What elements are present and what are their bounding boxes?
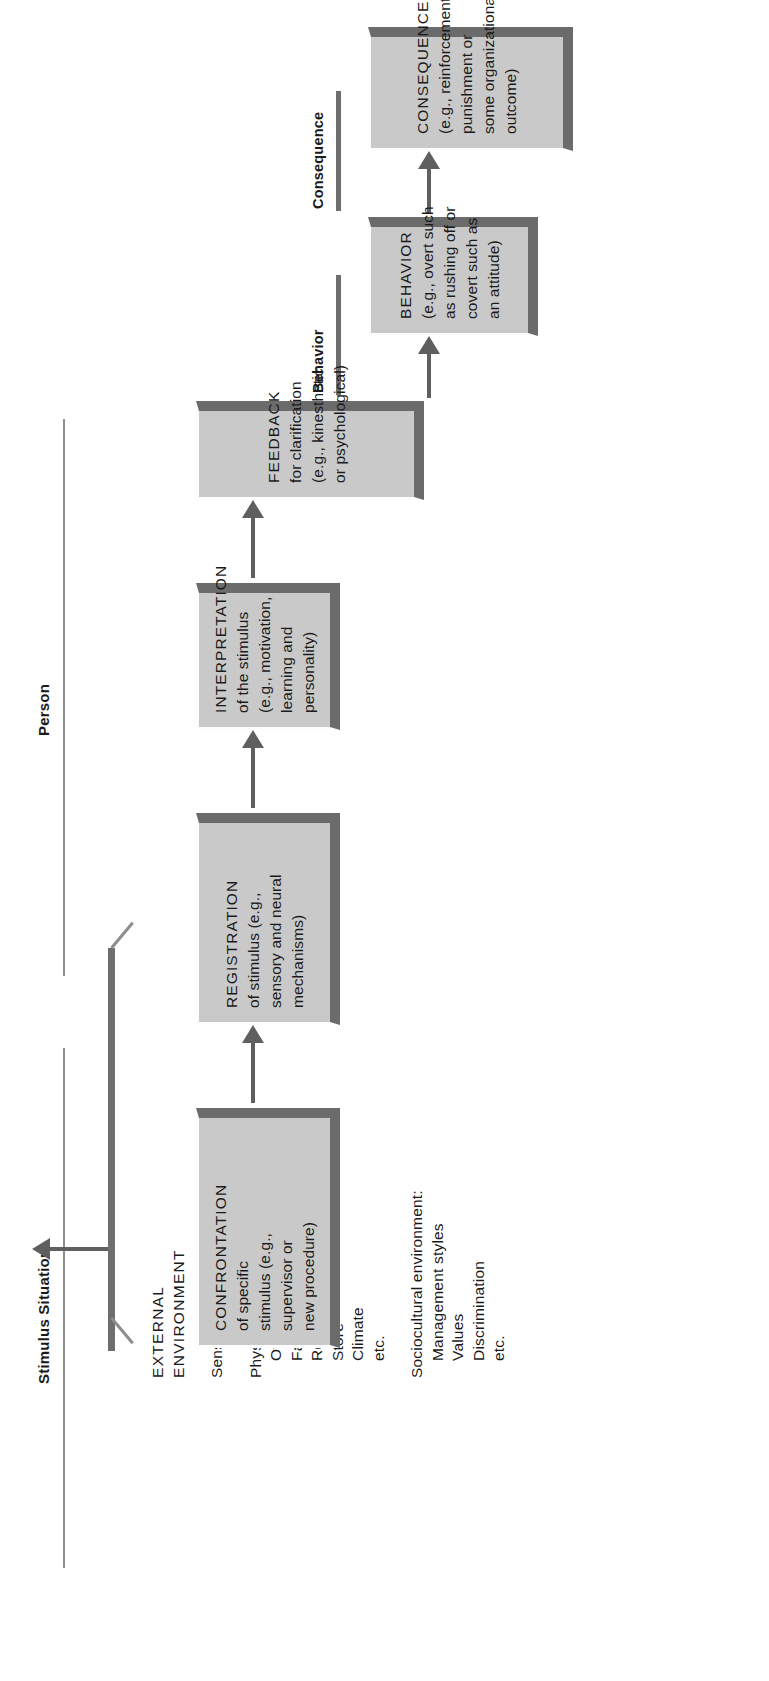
box-title-confrontation: CONFRONTATION: [210, 1132, 232, 1331]
box-line: or psychological): [329, 425, 351, 483]
process-box-registration[interactable]: REGISTRATION of stimulus (e.g., sensory …: [196, 813, 340, 1025]
box-line: stimulus (e.g.,: [254, 1132, 276, 1331]
arrow-registration-to-interpretation: [240, 730, 266, 808]
box-line: punishment or: [456, 51, 478, 134]
environment-physical-item: Climate: [348, 1190, 369, 1378]
arrow-confrontation-to-registration: [240, 1025, 266, 1103]
box-line: (e.g., kinesthetic: [307, 425, 329, 483]
box-line: supervisor or: [276, 1132, 298, 1331]
box-line: of stimulus (e.g.,: [243, 837, 265, 1008]
box-line: covert such as: [461, 241, 483, 319]
diagram-canvas: Stimulus Situation Person Behavior Conse…: [0, 0, 769, 1681]
box-title-registration: REGISTRATION: [221, 837, 243, 1008]
process-box-consequence[interactable]: CONSEQUENCE (e.g., reinforcement/ punish…: [368, 27, 573, 151]
header-label-consequence: Consequence: [310, 112, 326, 209]
environment-sociocultural-item: Values: [448, 1190, 469, 1378]
section-divider-person: [63, 419, 65, 976]
environment-sociocultural-item: Management styles: [428, 1190, 449, 1378]
box-line: as rushing off or: [439, 241, 461, 319]
box-title-behavior: BEHAVIOR: [395, 241, 417, 319]
box-line: personality): [298, 607, 320, 713]
process-box-interpretation[interactable]: INTERPRETATION of the stimulus (e.g., mo…: [196, 583, 340, 730]
environment-physical-item: etc.: [369, 1190, 390, 1378]
box-line: outcome): [500, 51, 522, 134]
box-line: mechanisms): [287, 837, 309, 1008]
box-line: sensory and neural: [265, 837, 287, 1008]
box-line: some organizational: [478, 51, 500, 134]
environment-brace-bar: [108, 948, 115, 1351]
box-title-interpretation: INTERPRETATION: [210, 607, 232, 713]
environment-brace-tail-right: [110, 922, 134, 949]
environment-sociocultural-heading: Sociocultural environment:: [407, 1190, 428, 1378]
box-line: of the stimulus: [232, 607, 254, 713]
box-line: learning and: [276, 607, 298, 713]
arrow-interpretation-to-feedback: [240, 500, 266, 578]
header-bar-consequence: [336, 91, 341, 211]
process-box-behavior[interactable]: BEHAVIOR (e.g., overt such as rushing of…: [368, 217, 538, 336]
box-line: (e.g., reinforcement/: [434, 51, 456, 134]
arrow-feedback-to-behavior: [416, 336, 442, 398]
environment-heading-line-2: ENVIRONMENT: [169, 1190, 190, 1378]
environment-heading-line-1: EXTERNAL: [148, 1190, 169, 1378]
box-line: new procedure): [298, 1132, 320, 1331]
box-title-feedback: FEEDBACK: [263, 425, 285, 483]
environment-sociocultural-item: etc.: [489, 1190, 510, 1378]
box-line: (e.g., motivation,: [254, 607, 276, 713]
box-line: for clarification: [285, 425, 307, 483]
process-box-feedback[interactable]: FEEDBACK for clarification (e.g., kinest…: [196, 401, 424, 500]
section-divider-stimulus: [63, 1048, 65, 1568]
box-line: (e.g., overt such: [417, 241, 439, 319]
box-title-consequence: CONSEQUENCE: [412, 51, 434, 134]
environment-sociocultural-item: Discrimination: [469, 1190, 490, 1378]
section-label-stimulus-situation: Stimulus Situation: [35, 1249, 52, 1384]
box-line: of specific: [232, 1132, 254, 1331]
section-label-person: Person: [35, 684, 52, 736]
process-box-confrontation[interactable]: CONFRONTATION of specific stimulus (e.g.…: [196, 1108, 340, 1348]
arrow-behavior-to-consequence: [416, 151, 442, 213]
box-line: an attitude): [483, 241, 505, 319]
